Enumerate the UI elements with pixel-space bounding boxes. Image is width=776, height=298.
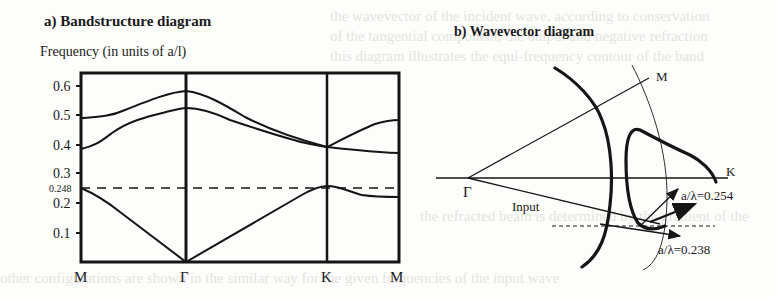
gamma-label: Γ (463, 184, 472, 200)
plot-frame (81, 73, 399, 262)
marked-value-label: 0.248 (49, 183, 72, 194)
x-tick-label-m-left: M (74, 269, 87, 285)
upper-frequency-label: a/λ=0.254 (681, 188, 734, 203)
y-tick-label: 0.5 (53, 108, 71, 123)
output-arrow-upper (640, 189, 678, 226)
air-contour-arc (632, 65, 667, 270)
y-tick-label: 0.3 (53, 166, 71, 181)
input-label: Input (512, 199, 540, 214)
gamma-m-line (468, 78, 649, 178)
x-tick-label-m-right: M (390, 269, 403, 285)
input-wavevector-line (468, 178, 660, 224)
m-label: M (656, 69, 668, 84)
equifrequency-contour-left (555, 68, 611, 267)
y-tick-label: 0.4 (53, 138, 71, 153)
k-label: K (726, 164, 736, 179)
group-velocity-arrow (650, 204, 695, 222)
wavevector-diagram: Γ M K Input a/λ=0.254 a/λ=0.238 (436, 65, 736, 270)
y-tick-label: 0.2 (53, 196, 71, 211)
lower-frequency-label: a/λ=0.238 (658, 242, 710, 257)
band-3-curve (81, 91, 399, 147)
band-1-curve (81, 186, 399, 262)
figure-canvas: 0.6 0.5 0.4 0.3 0.248 0.2 0.1 M Γ K M (0, 0, 776, 298)
x-tick-label-k: K (321, 269, 332, 285)
bandstructure-plot: 0.6 0.5 0.4 0.3 0.248 0.2 0.1 M Γ K M (49, 73, 403, 285)
y-tick-label: 0.1 (53, 226, 71, 241)
y-tick-label: 0.6 (53, 79, 71, 94)
x-tick-label-gamma: Γ (180, 269, 189, 285)
